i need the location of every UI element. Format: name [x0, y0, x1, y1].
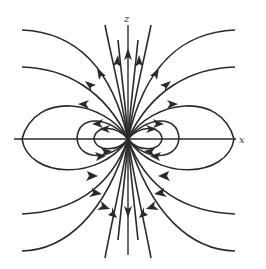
x-axis-label: x [239, 134, 245, 145]
dipole-field-diagram: x z [0, 0, 266, 269]
z-axis-label: z [123, 13, 130, 24]
